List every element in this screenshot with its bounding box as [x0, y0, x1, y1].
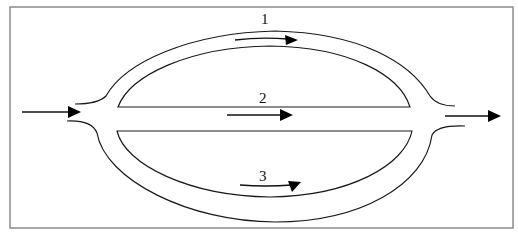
diagram-frame — [10, 7, 513, 228]
path-3-flow-arrow-icon — [240, 181, 301, 192]
parallel-paths-diagram: 1 2 3 — [0, 0, 518, 235]
path-2-label: 2 — [259, 90, 267, 106]
path-2-flow-arrow-icon — [227, 109, 293, 121]
lower-island — [117, 131, 412, 197]
outlet-arrow-icon — [445, 110, 501, 122]
path-1-label: 1 — [261, 11, 269, 27]
inlet-arrow-icon — [22, 106, 81, 118]
path-1-flow-arrow-icon — [235, 35, 298, 45]
path-3-label: 3 — [259, 168, 267, 184]
